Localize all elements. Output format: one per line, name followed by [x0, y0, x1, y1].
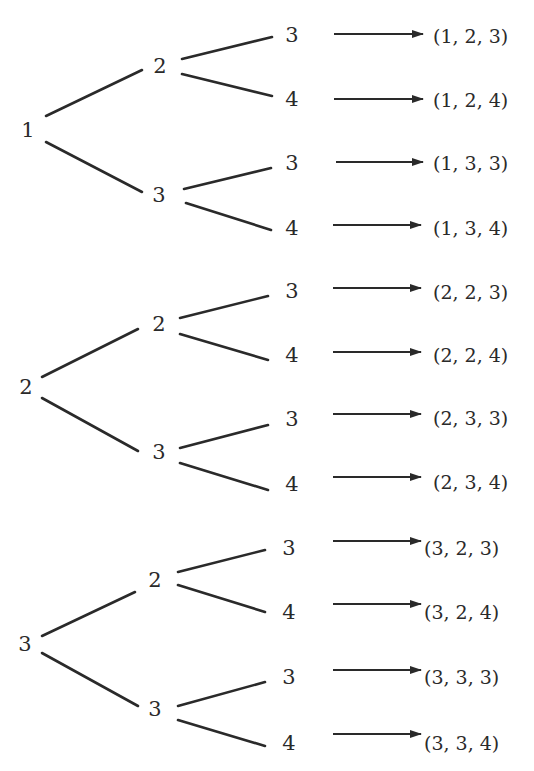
leaf-node: 4 — [282, 731, 295, 755]
leaf-node: 4 — [285, 472, 298, 496]
outcome-tuple: (2, 3, 3) — [433, 406, 508, 430]
outcome-tuple: (1, 3, 4) — [433, 216, 508, 240]
leaf-node: 3 — [285, 151, 298, 175]
root-node: 2 — [19, 375, 32, 399]
leaf-node: 4 — [285, 87, 298, 111]
outcome-tuple: (2, 2, 3) — [433, 280, 508, 304]
leaf-node: 4 — [285, 343, 298, 367]
leaf-node: 3 — [285, 279, 298, 303]
leaf-node: 3 — [285, 407, 298, 431]
mid-node: 2 — [152, 312, 165, 336]
outcome-tuple: (1, 3, 3) — [433, 151, 508, 175]
tree-edges — [0, 0, 534, 771]
outcome-tuple: (1, 2, 3) — [433, 24, 508, 48]
leaf-node: 4 — [285, 216, 298, 240]
leaf-node: 4 — [282, 600, 295, 624]
root-node: 1 — [21, 118, 34, 142]
outcome-tuple: (3, 2, 3) — [424, 536, 499, 560]
outcome-tuple: (2, 3, 4) — [433, 470, 508, 494]
leaf-node: 3 — [282, 536, 295, 560]
mid-node: 3 — [152, 440, 165, 464]
outcome-tuple: (3, 3, 4) — [424, 731, 499, 755]
outcome-tuple: (2, 2, 4) — [433, 343, 508, 367]
mid-node: 3 — [152, 183, 165, 207]
root-node: 3 — [18, 632, 31, 656]
outcome-tuple: (3, 2, 4) — [424, 600, 499, 624]
leaf-node: 3 — [282, 665, 295, 689]
mid-node: 2 — [148, 568, 161, 592]
outcome-tuple: (3, 3, 3) — [424, 665, 499, 689]
leaf-node: 3 — [285, 23, 298, 47]
mid-node: 2 — [153, 54, 166, 78]
mid-node: 3 — [148, 697, 161, 721]
outcome-tuple: (1, 2, 4) — [433, 88, 508, 112]
